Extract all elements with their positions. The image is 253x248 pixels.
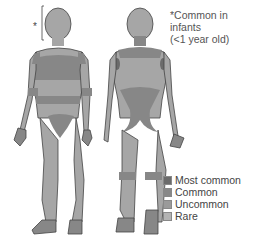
swatch-most-common	[163, 176, 172, 185]
legend-label: Rare	[175, 210, 198, 222]
infant-marker: *	[33, 21, 37, 32]
front-figure	[14, 6, 92, 234]
annotation-line-1: *Common in	[170, 9, 229, 21]
legend-item-common: Common	[163, 186, 241, 198]
annotation-line-2: infants	[170, 21, 229, 33]
legend-label: Common	[175, 186, 218, 198]
swatch-common	[163, 188, 172, 197]
swatch-rare	[163, 212, 172, 221]
swatch-uncommon	[163, 200, 172, 209]
legend-item-most-common: Most common	[163, 174, 241, 186]
legend-item-rare: Rare	[163, 210, 241, 222]
infant-annotation: *Common in infants (<1 year old)	[170, 9, 229, 45]
legend-label: Most common	[175, 174, 241, 186]
legend: Most common Common Uncommon Rare	[163, 174, 241, 222]
legend-label: Uncommon	[175, 198, 229, 210]
annotation-line-3: (<1 year old)	[170, 33, 229, 45]
legend-item-uncommon: Uncommon	[163, 198, 241, 210]
